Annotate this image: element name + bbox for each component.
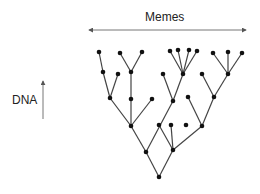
tree-node [150, 97, 155, 102]
tree-node [118, 51, 123, 56]
tree-edge [202, 74, 214, 97]
tree-edge [202, 97, 214, 126]
tree-edge [183, 51, 197, 74]
tree-edge [163, 74, 173, 101]
tree-edge [131, 52, 142, 72]
tree-node [176, 48, 181, 53]
tree-node [144, 150, 149, 155]
tree-node [97, 50, 102, 55]
tree-edges [99, 50, 242, 177]
tree-node [187, 48, 192, 53]
tree-node [171, 148, 176, 153]
tree-edge [110, 98, 131, 126]
tree-edge [131, 126, 146, 152]
tree-node [200, 124, 205, 129]
tree-edge [131, 99, 152, 126]
tree-edge [183, 50, 189, 74]
tree-node [129, 97, 134, 102]
tree-edge [103, 72, 110, 98]
tree-diagram [0, 0, 260, 194]
tree-nodes [97, 48, 245, 180]
tree-node [108, 96, 113, 101]
tree-node [226, 50, 231, 55]
tree-edge [110, 74, 118, 98]
tree-node [129, 70, 134, 75]
tree-node [240, 51, 245, 56]
tree-edge [173, 126, 202, 150]
tree-node [200, 72, 205, 77]
tree-node [116, 72, 121, 77]
tree-node [157, 175, 162, 180]
tree-edge [159, 150, 173, 177]
tree-node [186, 95, 191, 100]
tree-node [168, 49, 173, 54]
tree-node [169, 123, 174, 128]
tree-node [181, 72, 186, 77]
tree-edge [120, 53, 131, 72]
tree-edge [213, 53, 228, 74]
tree-node [157, 123, 162, 128]
tree-node [101, 70, 106, 75]
tree-edge [214, 74, 228, 97]
tree-node [171, 99, 176, 104]
tree-edge [99, 52, 103, 72]
tree-node [140, 50, 145, 55]
tree-node [184, 123, 189, 128]
tree-node [212, 95, 217, 100]
tree-node [226, 72, 231, 77]
tree-node [161, 72, 166, 77]
tree-node [195, 49, 200, 54]
tree-edge [228, 53, 242, 74]
tree-node [211, 51, 216, 56]
memes-axis-label: Memes [145, 10, 184, 24]
tree-node [129, 124, 134, 129]
tree-edge [146, 152, 159, 177]
tree-edge [173, 74, 183, 101]
tree-edge [188, 97, 202, 126]
phylogeny-diagram: Memes DNA [0, 0, 260, 194]
dna-axis-label: DNA [12, 93, 37, 107]
